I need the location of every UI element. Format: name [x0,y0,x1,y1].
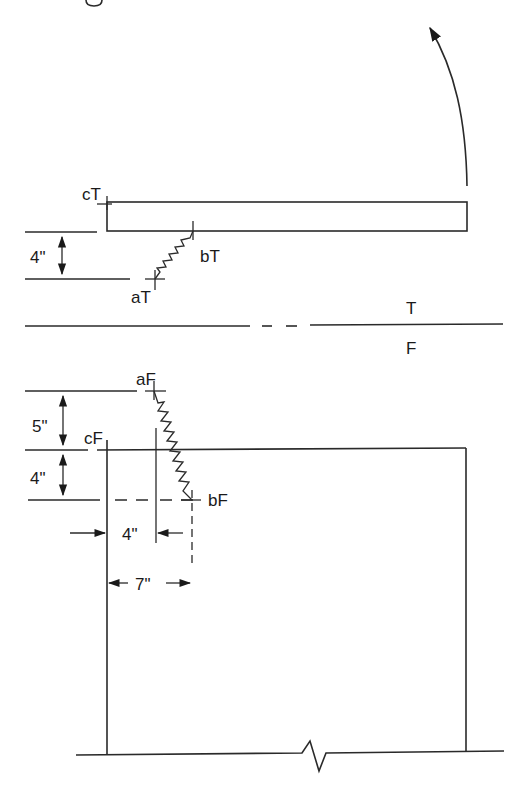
label-aT: aT [131,288,151,307]
separator-right [310,324,503,325]
cropped-text-fragment [86,0,102,6]
dim-4in-horizontal-label: 4" [122,525,138,544]
bottom-view: 5" 4" cF aF bF 4" 7" [25,370,504,771]
label-aF: aF [136,370,156,389]
top-plate-rect [107,202,467,231]
diagram-canvas: cT 4" bT aT T F [0,0,531,805]
bottom-break-line [76,741,504,771]
bottom-spring [154,391,192,500]
label-bF: bF [208,491,228,510]
label-bT: bT [200,247,220,266]
dim-5in-label: 5" [32,417,48,436]
dim-4in-vertical-label: 4" [30,469,46,488]
section-separator: T F [25,299,503,358]
top-view: cT 4" bT aT [25,185,467,307]
top-dim-4in-label: 4" [30,248,46,267]
label-cT: cT [82,185,101,204]
label-cF: cF [84,429,103,448]
section-label-T: T [406,299,416,318]
rotation-arrow [430,28,467,186]
dim-7in-label: 7" [135,575,151,594]
section-label-F: F [406,339,416,358]
top-spring [155,231,193,279]
frame-top-edge [97,448,466,450]
